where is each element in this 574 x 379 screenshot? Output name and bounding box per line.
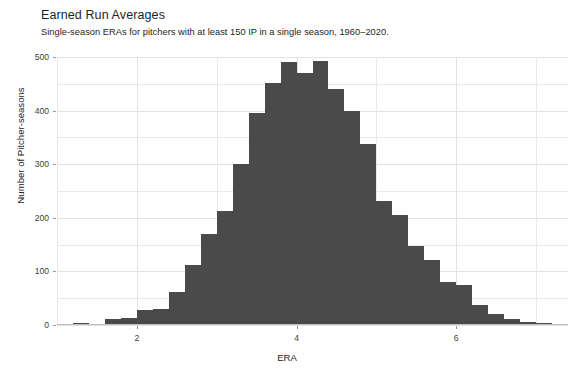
x-tick-mark	[297, 326, 298, 329]
x-tick-label: 6	[446, 333, 466, 343]
x-tick-mark	[137, 326, 138, 329]
x-tick-label: 2	[127, 333, 147, 343]
y-tick-mark	[53, 218, 56, 219]
x-tick-mark	[456, 326, 457, 329]
x-axis-title: ERA	[0, 352, 574, 363]
chart-figure: Earned Run Averages Single-season ERAs f…	[0, 0, 574, 379]
y-axis-title: Number of Pitcher-seasons	[15, 46, 26, 246]
y-tick-mark	[53, 111, 56, 112]
axis-tick-layer: 0100200300400500246	[0, 0, 574, 379]
y-tick-mark	[53, 325, 56, 326]
y-tick-mark	[53, 271, 56, 272]
y-axis-title-wrap: Number of Pitcher-seasons	[0, 0, 30, 379]
y-tick-mark	[53, 164, 56, 165]
y-tick-mark	[53, 57, 56, 58]
x-tick-label: 4	[287, 333, 307, 343]
